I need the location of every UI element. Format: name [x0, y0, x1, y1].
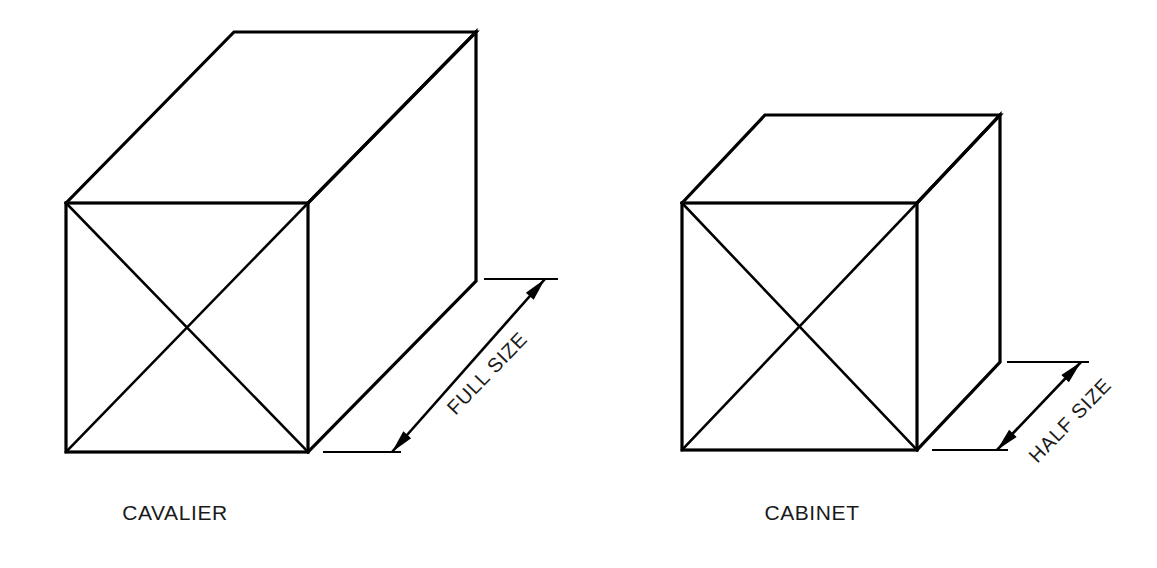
cavalier-dimension-label: FULL SIZE: [442, 328, 531, 419]
cabinet-caption: CABINET: [764, 501, 859, 524]
cabinet-top-face: [682, 115, 1000, 203]
cavalier-dimension-line: [392, 279, 545, 452]
figure-cavalier: FULL SIZE CAVALIER: [66, 32, 558, 524]
cabinet-right-face: [917, 115, 1000, 450]
figure-cabinet: HALF SIZE CABINET: [682, 115, 1116, 524]
cavalier-caption: CAVALIER: [122, 501, 228, 524]
cavalier-right-face: [308, 32, 476, 452]
cabinet-dimension-label: HALF SIZE: [1024, 374, 1115, 467]
diagram-canvas: FULL SIZE CAVALIER HALF SIZE CABINET: [0, 0, 1157, 568]
oblique-projection-diagram: FULL SIZE CAVALIER HALF SIZE CABINET: [0, 0, 1157, 568]
cavalier-top-face: [66, 32, 476, 203]
